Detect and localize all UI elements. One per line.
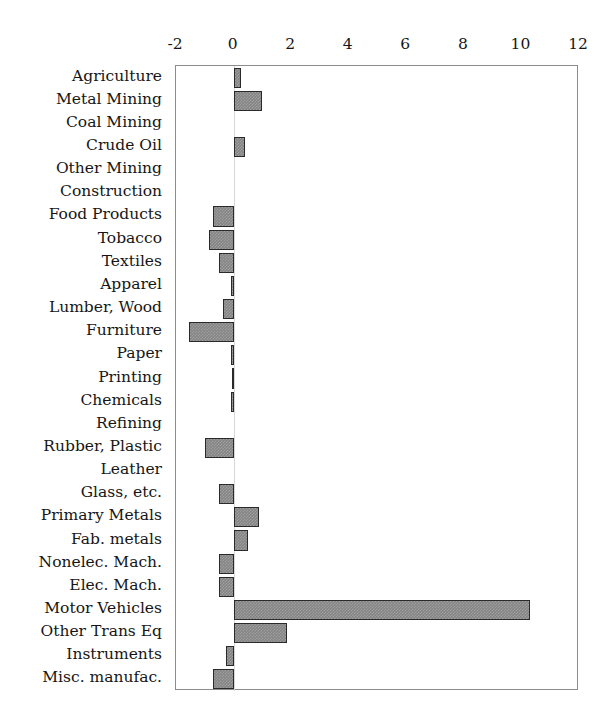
- y-axis-category-labels: AgricultureMetal MiningCoal MiningCrude …: [0, 65, 168, 690]
- bar: [213, 206, 234, 226]
- x-tick-label: 10: [511, 36, 531, 52]
- y-axis-tick-label: Agriculture: [0, 68, 168, 85]
- y-axis-tick-label: Crude Oil: [0, 137, 168, 154]
- y-axis-tick-label: Lumber, Wood: [0, 299, 168, 316]
- bars-layer: [176, 66, 579, 691]
- y-axis-tick-label: Instruments: [0, 646, 168, 663]
- bar: [213, 669, 233, 689]
- y-axis-tick-label: Elec. Mach.: [0, 577, 168, 594]
- y-axis-tick-label: Coal Mining: [0, 114, 168, 131]
- bar: [209, 230, 233, 250]
- y-axis-tick-label: Other Trans Eq: [0, 623, 168, 640]
- bar: [234, 600, 530, 620]
- x-tick-label: 4: [343, 36, 353, 52]
- bar: [231, 392, 233, 412]
- x-tick-label: 6: [400, 36, 410, 52]
- y-axis-tick-label: Refining: [0, 415, 168, 432]
- y-axis-tick-label: Construction: [0, 183, 168, 200]
- bar: [232, 368, 234, 388]
- y-axis-tick-label: Paper: [0, 345, 168, 362]
- y-axis-tick-label: Textiles: [0, 253, 168, 270]
- y-axis-tick-label: Furniture: [0, 322, 168, 339]
- bar: [234, 91, 263, 111]
- bar-chart: -2024681012 AgricultureMetal MiningCoal …: [0, 0, 608, 728]
- bar: [219, 577, 233, 597]
- y-axis-tick-label: Glass, etc.: [0, 484, 168, 501]
- y-axis-tick-label: Primary Metals: [0, 507, 168, 524]
- x-tick-label: 8: [458, 36, 468, 52]
- x-tick-label: 0: [228, 36, 238, 52]
- bar: [231, 276, 234, 296]
- x-tick-label: 2: [285, 36, 295, 52]
- x-axis-top: -2024681012: [0, 0, 608, 65]
- y-axis-tick-label: Rubber, Plastic: [0, 438, 168, 455]
- bar: [234, 530, 248, 550]
- y-axis-tick-label: Fab. metals: [0, 531, 168, 548]
- y-axis-tick-label: Printing: [0, 369, 168, 386]
- y-axis-tick-label: Food Products: [0, 206, 168, 223]
- y-axis-tick-label: Chemicals: [0, 392, 168, 409]
- bar: [219, 253, 233, 273]
- bar: [219, 484, 233, 504]
- bar: [234, 507, 260, 527]
- y-axis-tick-label: Misc. manufac.: [0, 669, 168, 686]
- y-axis-tick-label: Leather: [0, 461, 168, 478]
- bar: [234, 68, 241, 88]
- bar: [234, 137, 246, 157]
- bar: [231, 345, 234, 365]
- y-axis-tick-label: Apparel: [0, 276, 168, 293]
- y-axis-tick-label: Motor Vehicles: [0, 600, 168, 617]
- bar: [223, 299, 233, 319]
- y-axis-tick-label: Metal Mining: [0, 91, 168, 108]
- x-tick-label: 12: [568, 36, 588, 52]
- plot-area: [175, 65, 578, 690]
- y-axis-tick-label: Nonelec. Mach.: [0, 554, 168, 571]
- y-axis-tick-label: Other Mining: [0, 160, 168, 177]
- y-axis-tick-label: Tobacco: [0, 230, 168, 247]
- bar: [226, 646, 233, 666]
- bar: [219, 554, 233, 574]
- bar: [205, 438, 234, 458]
- bar: [189, 322, 234, 342]
- x-tick-label: -2: [167, 36, 182, 52]
- bar: [234, 623, 287, 643]
